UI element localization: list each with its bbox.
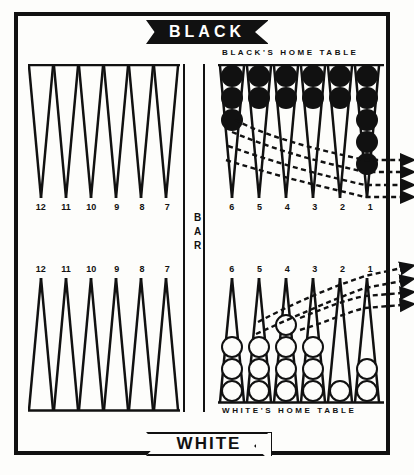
- point-numbers-black-home: 6 5 4 3 2 1: [218, 202, 384, 212]
- black-checker[interactable]: [356, 109, 378, 131]
- white-checker[interactable]: [356, 380, 378, 402]
- white-home-table-label: WHITE'S HOME TABLE: [222, 406, 356, 415]
- point-number: 10: [79, 264, 104, 274]
- point-number: 8: [129, 202, 154, 212]
- black-checker[interactable]: [302, 87, 324, 109]
- point-number: 10: [79, 202, 104, 212]
- point-number: 6: [218, 202, 246, 212]
- point-number: 9: [104, 202, 129, 212]
- black-player-label: BLACK: [169, 23, 245, 41]
- white-checker[interactable]: [356, 358, 378, 380]
- black-checker[interactable]: [221, 109, 243, 131]
- black-checker[interactable]: [329, 65, 351, 87]
- black-checker[interactable]: [356, 131, 378, 153]
- white-checker[interactable]: [275, 314, 297, 336]
- black-checker[interactable]: [302, 65, 324, 87]
- point-number: 1: [356, 264, 384, 274]
- white-player-label: WHITE: [177, 434, 242, 454]
- white-checker[interactable]: [248, 380, 270, 402]
- point-number: 4: [273, 264, 301, 274]
- white-checker[interactable]: [302, 358, 324, 380]
- white-checker[interactable]: [275, 380, 297, 402]
- black-checker[interactable]: [248, 87, 270, 109]
- point-numbers-white-home: 6 5 4 3 2 1: [218, 264, 384, 274]
- point-number: 11: [53, 264, 78, 274]
- white-checker[interactable]: [275, 336, 297, 358]
- point-number: 9: [104, 264, 129, 274]
- white-checker[interactable]: [302, 336, 324, 358]
- point-number: 8: [129, 264, 154, 274]
- white-checker[interactable]: [329, 380, 351, 402]
- black-checker[interactable]: [356, 87, 378, 109]
- point-number: 2: [329, 202, 357, 212]
- white-checker[interactable]: [248, 336, 270, 358]
- point-number: 7: [155, 264, 180, 274]
- point-number: 12: [28, 202, 53, 212]
- quadrant-white-outer: [28, 278, 180, 412]
- point-number: 3: [301, 202, 329, 212]
- black-checker[interactable]: [248, 65, 270, 87]
- black-checker[interactable]: [221, 87, 243, 109]
- point-number: 4: [273, 202, 301, 212]
- black-checker[interactable]: [275, 65, 297, 87]
- point-number: 1: [356, 202, 384, 212]
- black-checker[interactable]: [329, 87, 351, 109]
- point-numbers-black-outer: 12 11 10 9 8 7: [28, 202, 180, 212]
- black-checker[interactable]: [221, 65, 243, 87]
- point-number: 2: [329, 264, 357, 274]
- quadrant-black-outer: [28, 64, 180, 199]
- black-checker[interactable]: [356, 153, 378, 175]
- point-number: 5: [246, 202, 274, 212]
- white-checker[interactable]: [302, 380, 324, 402]
- point-number: 3: [301, 264, 329, 274]
- white-checker[interactable]: [275, 358, 297, 380]
- white-checker[interactable]: [221, 336, 243, 358]
- point-number: 12: [28, 264, 53, 274]
- white-checker[interactable]: [221, 358, 243, 380]
- black-checker[interactable]: [275, 87, 297, 109]
- point-number: 11: [53, 202, 78, 212]
- white-player-banner: WHITE: [146, 432, 272, 456]
- white-checker[interactable]: [221, 380, 243, 402]
- bar-label: BAR: [186, 212, 202, 254]
- point-number: 5: [246, 264, 274, 274]
- black-home-table-label: BLACK'S HOME TABLE: [222, 48, 359, 57]
- white-checker[interactable]: [248, 358, 270, 380]
- black-player-banner: BLACK: [146, 20, 268, 44]
- black-checker[interactable]: [356, 65, 378, 87]
- point-number: 6: [218, 264, 246, 274]
- point-number: 7: [155, 202, 180, 212]
- point-numbers-white-outer: 12 11 10 9 8 7: [28, 264, 180, 274]
